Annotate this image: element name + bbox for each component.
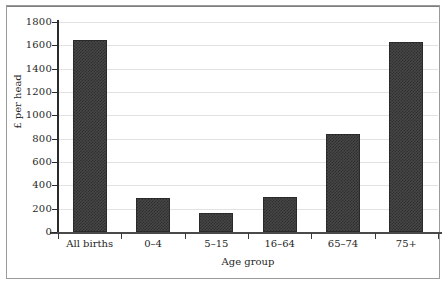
y-axis-tick-mark	[52, 45, 57, 46]
x-axis-tick-label: 5–15	[185, 238, 248, 250]
y-axis-tick-mark	[52, 139, 57, 140]
bar	[136, 198, 170, 232]
x-axis-tick-label: All births	[58, 238, 121, 250]
y-axis-title: £ per head	[12, 47, 23, 157]
y-axis-tick-mark	[52, 69, 57, 70]
x-axis-tick-label: 16–64	[248, 238, 311, 250]
x-axis-tick-mark	[375, 233, 376, 239]
y-axis-tick-mark	[52, 185, 57, 186]
y-axis-tick-mark	[52, 92, 57, 93]
y-axis-tick-label: 400	[6, 180, 52, 190]
y-axis-tick-label: 600	[6, 157, 52, 167]
x-axis-tick-labels: All births0–45–1516–6465–7475+	[58, 238, 438, 254]
x-axis-tick-mark	[438, 233, 439, 239]
x-axis-tick-mark	[248, 233, 249, 239]
y-axis-tick-mark	[52, 209, 57, 210]
x-axis-line	[50, 232, 442, 234]
x-axis-title: Age group	[58, 256, 438, 267]
y-axis-tick-mark	[52, 22, 57, 23]
x-axis-tick-mark	[121, 233, 122, 239]
x-axis-tick-label: 75+	[375, 238, 438, 250]
bar	[389, 42, 423, 232]
bar	[199, 213, 233, 232]
bar	[263, 197, 297, 232]
bar	[73, 40, 107, 233]
y-axis-tick-mark	[52, 232, 57, 233]
y-axis-tick-label: 0	[6, 227, 52, 237]
x-axis-tick-mark	[58, 233, 59, 239]
y-axis-tick-labels: 020040060080010001200140016001800	[0, 22, 52, 232]
x-axis-tick-mark	[185, 233, 186, 239]
x-axis-tick-label: 0–4	[121, 238, 184, 250]
y-axis-tick-label: 200	[6, 204, 52, 214]
x-axis-tick-label: 65–74	[311, 238, 374, 250]
y-axis-tick-mark	[52, 162, 57, 163]
y-axis-tick-mark	[52, 115, 57, 116]
bar-chart: 020040060080010001200140016001800 £ per …	[0, 0, 448, 286]
y-axis-line	[57, 20, 59, 234]
y-axis-tick-label: 1800	[6, 17, 52, 27]
bar	[326, 134, 360, 232]
x-axis-tick-mark	[311, 233, 312, 239]
plot-area	[58, 22, 438, 232]
